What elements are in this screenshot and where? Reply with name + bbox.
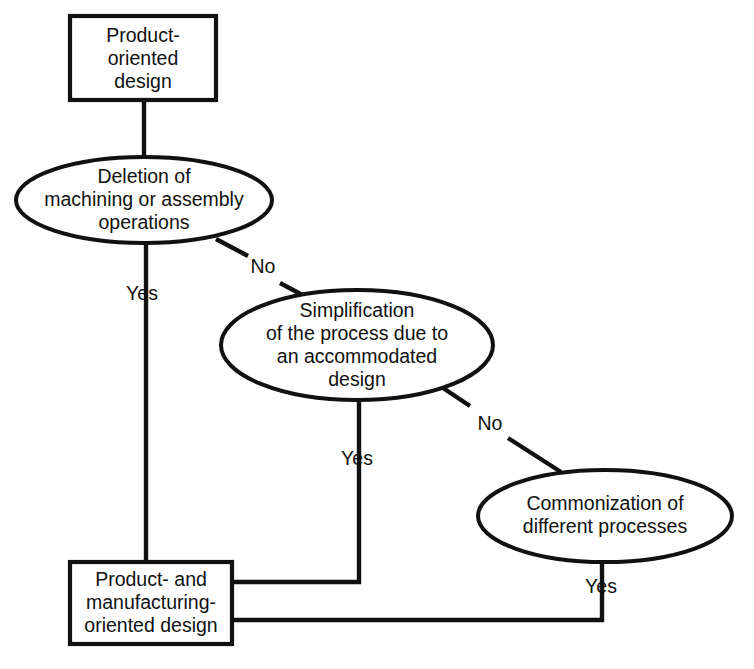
node-label-line: Deletion of [97,165,191,187]
connector-commonization-yes [232,561,602,620]
node-label-line: Product- and [95,568,207,590]
node-label-line: operations [98,211,189,233]
node-label-line: different processes [523,515,688,537]
flowchart-diagram: Product- oriented design Deletion of mac… [0,0,754,669]
connector-simplification-no-lower [508,438,561,472]
connector-deletion-no-upper [216,239,248,256]
flowchart-canvas: Product- oriented design Deletion of mac… [0,0,754,669]
node-product-and-manufacturing-oriented-design[interactable]: Product- and manufacturing- oriented des… [70,562,232,644]
node-label-line: design [114,70,171,92]
node-label-line: of the process due to [266,322,448,344]
node-label-line: manufacturing- [86,591,216,613]
node-label-line: Commonization of [526,492,684,514]
edge-label-simplification-yes: Yes [341,447,373,469]
node-simplification-of-process[interactable]: Simplification of the process due to an … [221,290,493,400]
node-label-line: design [328,368,385,390]
node-label-line: machining or assembly [44,188,244,210]
node-deletion-of-operations[interactable]: Deletion of machining or assembly operat… [16,157,272,243]
edge-label-simplification-no: No [478,412,503,434]
node-label-line: oriented design [84,614,217,636]
node-product-oriented-design[interactable]: Product- oriented design [70,16,216,100]
edge-label-deletion-no: No [251,255,276,277]
node-label-line: Simplification [300,299,415,321]
edge-label-deletion-yes: Yes [126,282,158,304]
edge-label-commonization-yes: Yes [585,575,617,597]
node-commonization-of-processes[interactable]: Commonization of different processes [478,470,732,562]
node-label-line: Product- [106,24,180,46]
node-label-line: oriented [108,47,178,69]
connector-simplification-yes [232,399,359,582]
node-label-line: an accommodated [277,345,437,367]
